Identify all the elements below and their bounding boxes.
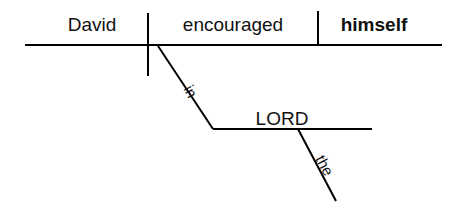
diagram-word-subject: David	[68, 14, 117, 35]
diagram-canvas: DavidencouragedhimselfLORDinthe	[0, 0, 459, 213]
diagram-lines-group	[25, 11, 442, 201]
diagram-word-direct_object: himself	[341, 14, 408, 35]
sentence-diagram: DavidencouragedhimselfLORDinthe	[0, 0, 459, 213]
diagram-word-verb: encouraged	[183, 14, 283, 35]
diagram-word-article: the	[312, 152, 337, 178]
diagram-labels-group: DavidencouragedhimselfLORDinthe	[68, 14, 408, 179]
diagram-word-object_of_preposition: LORD	[256, 108, 309, 129]
